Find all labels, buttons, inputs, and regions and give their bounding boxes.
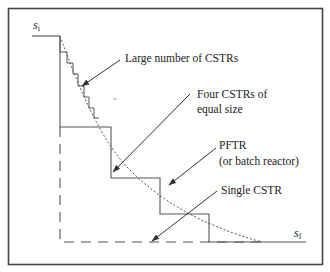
arrow-single-cstr	[152, 191, 217, 241]
label-single-cstr: Single CSTR	[221, 184, 282, 197]
label-four-cstrs-line2: equal size	[197, 103, 243, 116]
reactor-staging-diagram: si sf Large number of CSTRs Four CSTRs o…	[0, 0, 330, 272]
label-s-final: sf	[294, 226, 302, 241]
arrow-four-cstrs	[113, 94, 190, 172]
diagram-frame	[9, 9, 323, 265]
arrow-pftr	[169, 148, 216, 185]
four-cstr-staircase	[60, 36, 209, 242]
label-large-number-cstrs: Large number of CSTRs	[125, 52, 239, 65]
label-four-cstrs-line1: Four CSTRs of	[197, 88, 267, 100]
many-cstr-staircase	[60, 36, 99, 118]
label-s-initial: si	[33, 18, 41, 33]
label-pftr-line2: (or batch reactor)	[219, 155, 299, 168]
label-pftr-line1: PFTR	[219, 139, 247, 151]
arrow-large-cstrs	[82, 60, 120, 86]
